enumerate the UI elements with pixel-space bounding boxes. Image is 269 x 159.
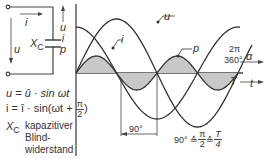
current-label: i <box>25 16 27 28</box>
xc-symbol: XC <box>6 120 20 135</box>
curve-label-i: i <box>121 33 123 45</box>
y-axis-label: u i p <box>60 22 66 55</box>
xc-description: kapazitiver Blind- widerstand <box>25 120 73 156</box>
x-axis-t: t <box>250 77 253 89</box>
phase-dimension-label: 90° <box>129 124 143 134</box>
equivalence-formula: 90° ≙ π2 ≙ T4 <box>174 130 222 149</box>
capacitor-label: XC <box>30 37 44 52</box>
curve-label-p: p <box>193 42 199 54</box>
x-axis-360: 360° <box>224 55 243 65</box>
x-axis-alpha: α <box>246 50 252 62</box>
formula-i: i = î · sin(ωt + π2) <box>6 100 88 119</box>
waveform-curves <box>76 16 252 127</box>
x-axis-2pi: 2π <box>229 44 240 54</box>
x-axis-period-T: T <box>230 75 237 87</box>
curve-label-u: u <box>164 10 170 22</box>
formula-u: u = û · sin ωt <box>6 87 69 99</box>
leader-line <box>178 49 192 56</box>
voltage-label: u <box>14 43 20 55</box>
